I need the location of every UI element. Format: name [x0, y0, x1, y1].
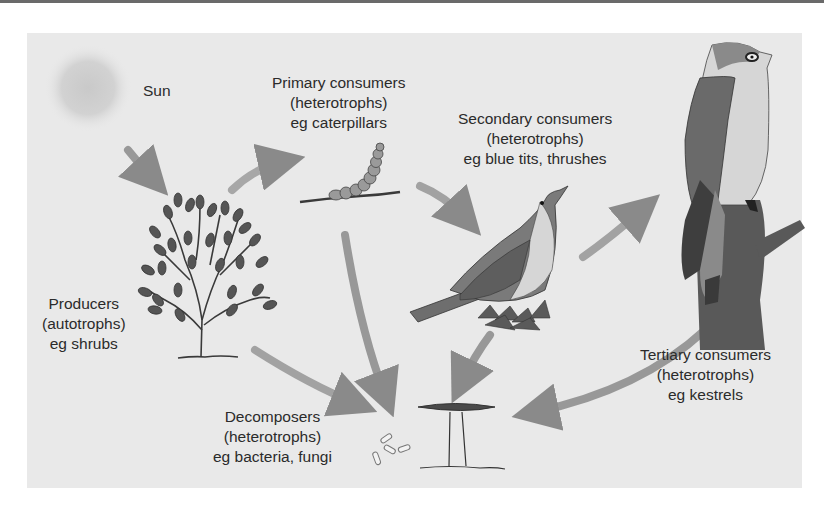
producers-label-line-1: Producers	[42, 294, 126, 314]
food-chain-diagram	[0, 0, 824, 507]
arrow-producers-to-primary	[232, 162, 282, 190]
caterpillar-icon	[300, 143, 400, 202]
primary-label-line-1: Primary consumers	[272, 73, 406, 93]
decomposers-label-line-3: eg bacteria, fungi	[213, 447, 332, 467]
tertiary-consumers-label: Tertiary consumers (heterotrophs) eg kes…	[640, 345, 771, 405]
decomposers-label: Decomposers (heterotrophs) eg bacteria, …	[213, 407, 332, 467]
bacteria-icon	[372, 433, 411, 465]
tertiary-label-line-1: Tertiary consumers	[640, 345, 771, 365]
sun-label-line-1: Sun	[143, 81, 171, 101]
arrow-producers-to-decomposers	[255, 350, 355, 403]
secondary-label-line-2: (heterotrophs)	[458, 129, 612, 149]
producers-label: Producers (autotrophs) eg shrubs	[42, 294, 126, 354]
songbird-icon	[410, 186, 568, 330]
primary-label-line-3: eg caterpillars	[272, 113, 406, 133]
shrub-icon	[137, 193, 278, 358]
arrow-sun-to-producers	[128, 150, 152, 178]
kestrel-icon	[682, 43, 806, 350]
arrow-secondary-to-decomposers	[462, 335, 490, 382]
producers-label-line-2: (autotrophs)	[42, 314, 126, 334]
mushroom-icon	[418, 404, 505, 470]
arrow-primary-to-secondary	[420, 186, 465, 218]
secondary-label-line-1: Secondary consumers	[458, 109, 612, 129]
sun-icon	[44, 44, 132, 132]
decomposers-label-line-1: Decomposers	[213, 407, 332, 427]
primary-consumers-label: Primary consumers (heterotrophs) eg cate…	[272, 73, 406, 133]
tertiary-label-line-3: eg kestrels	[640, 385, 771, 405]
decomposers-label-line-2: (heterotrophs)	[213, 427, 332, 447]
primary-label-line-2: (heterotrophs)	[272, 93, 406, 113]
producers-label-line-3: eg shrubs	[42, 334, 126, 354]
tertiary-label-line-2: (heterotrophs)	[640, 365, 771, 385]
arrow-primary-to-decomposers	[345, 235, 385, 395]
sun-label: Sun	[143, 81, 171, 101]
secondary-consumers-label: Secondary consumers (heterotrophs) eg bl…	[458, 109, 612, 169]
arrow-secondary-to-tertiary	[583, 210, 642, 257]
secondary-label-line-3: eg blue tits, thrushes	[458, 149, 612, 169]
